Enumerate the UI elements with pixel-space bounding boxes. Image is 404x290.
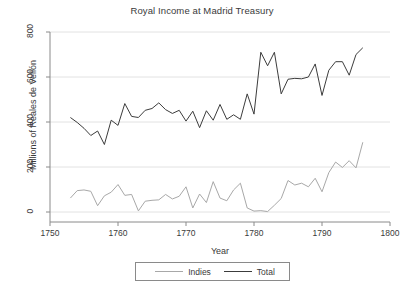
legend-swatch-total xyxy=(224,271,252,272)
gridlines xyxy=(50,32,390,212)
axis-ticks xyxy=(46,32,390,226)
chart-legend: Indies Total xyxy=(135,262,290,281)
legend-item-indies: Indies xyxy=(150,267,211,277)
y-tick-label: 800 xyxy=(25,18,35,44)
y-tick-label: 600 xyxy=(25,63,35,89)
x-tick-label: 1790 xyxy=(304,228,340,238)
legend-label-indies: Indies xyxy=(188,267,211,277)
x-tick-label: 1780 xyxy=(236,228,272,238)
x-tick-label: 1770 xyxy=(168,228,204,238)
series-line-total xyxy=(70,48,362,145)
legend-swatch-indies xyxy=(155,271,183,272)
y-tick-label: 200 xyxy=(25,153,35,179)
plot-area xyxy=(0,0,404,290)
x-tick-label: 1800 xyxy=(372,228,404,238)
legend-label-total: Total xyxy=(257,267,275,277)
chart-figure: Royal Income at Madrid Treasury Millions… xyxy=(0,0,404,290)
x-tick-label: 1750 xyxy=(32,228,68,238)
series-line-indies xyxy=(70,142,362,211)
y-tick-label: 0 xyxy=(25,198,35,224)
x-tick-label: 1760 xyxy=(100,228,136,238)
legend-item-total: Total xyxy=(219,267,275,277)
y-tick-label: 400 xyxy=(25,108,35,134)
